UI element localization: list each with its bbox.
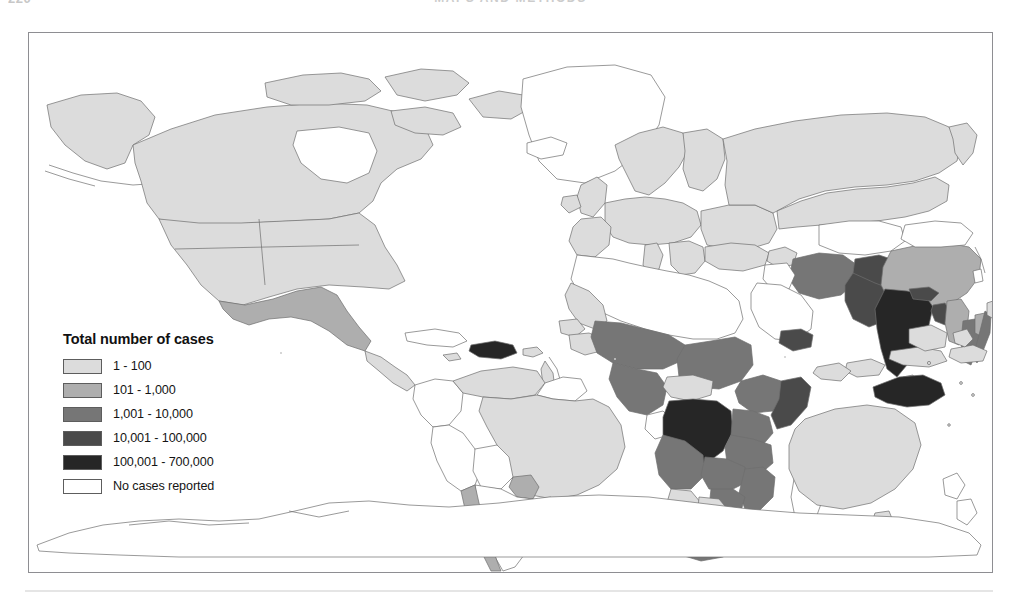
page-folio-number: 220 [8,0,31,6]
legend-swatch-2 [63,383,102,398]
map-legend: Total number of cases 1 - 100 101 - 1,00… [63,331,268,498]
legend-swatch-4 [63,431,102,446]
legend-item: 10,001 - 100,000 [63,426,268,450]
legend-item: 100,001 - 700,000 [63,450,268,474]
legend-label-4: 10,001 - 100,000 [113,431,207,445]
legend-label-2: 101 - 1,000 [113,383,176,397]
legend-swatch-1 [63,359,102,374]
legend-item: 1,001 - 10,000 [63,402,268,426]
page-header: 220 MAPS AND METHODS [0,0,1021,10]
legend-item: 1 - 100 [63,354,268,378]
legend-label-1: 1 - 100 [113,359,152,373]
legend-label-6: No cases reported [113,479,214,493]
figure-frame: .ln { fill:none; stroke:#6f6f6f; stroke-… [28,32,993,573]
legend-swatch-5 [63,455,102,470]
page-bottom-rule [25,590,993,592]
legend-swatch-6 [63,479,102,494]
running-head: MAPS AND METHODS [0,0,1021,5]
legend-swatch-3 [63,407,102,422]
legend-label-5: 100,001 - 700,000 [113,455,214,469]
legend-label-3: 1,001 - 10,000 [113,407,193,421]
legend-title: Total number of cases [63,331,268,347]
legend-item: No cases reported [63,474,268,498]
legend-item: 101 - 1,000 [63,378,268,402]
